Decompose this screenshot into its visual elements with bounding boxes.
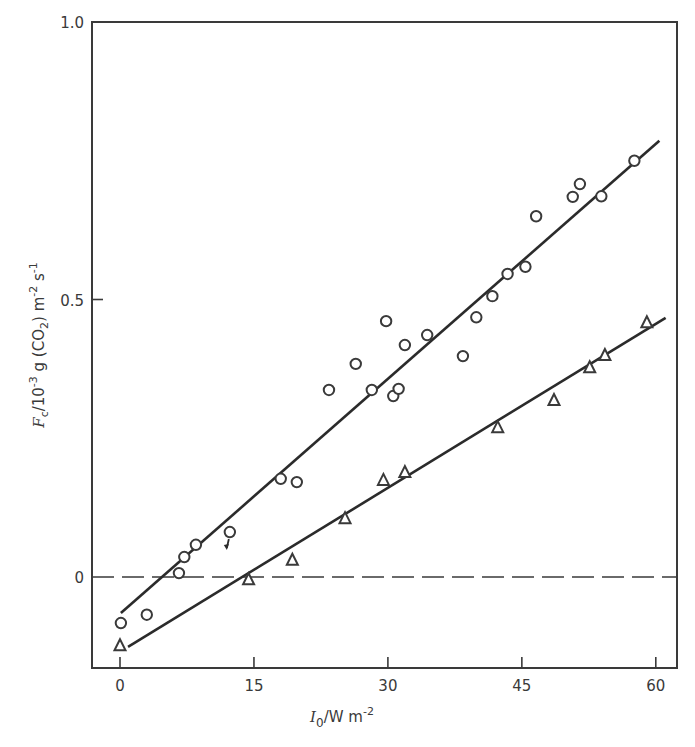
circles-fit-line <box>121 141 659 613</box>
circle-marker <box>179 552 189 562</box>
circle-marker <box>629 156 639 166</box>
triangle-marker <box>340 512 351 523</box>
triangle-marker <box>378 474 389 485</box>
triangle-marker <box>399 466 410 477</box>
x-tick-label: 15 <box>244 677 263 695</box>
circle-marker <box>393 384 403 394</box>
triangles-fit-line <box>128 318 666 647</box>
arrowhead-icon <box>224 544 229 550</box>
circle-marker <box>324 385 334 395</box>
y-tick-label: 1.0 <box>60 14 84 32</box>
triangle-marker <box>599 349 610 360</box>
circle-marker <box>400 340 410 350</box>
axis-ticks: 01530456000.51.0 <box>60 14 665 695</box>
y-tick-label: 0 <box>74 569 84 587</box>
x-tick-label: 0 <box>115 677 125 695</box>
circle-marker <box>596 191 606 201</box>
circle-marker <box>575 179 585 189</box>
y-tick-label: 0.5 <box>60 292 84 310</box>
circle-marker <box>568 192 578 202</box>
x-tick-label: 30 <box>378 677 397 695</box>
circle-marker <box>422 330 432 340</box>
triangle-marker <box>641 316 652 327</box>
circle-marker <box>381 316 391 326</box>
x-axis-label: I0/W m-2 <box>309 705 374 730</box>
x-tick-label: 60 <box>646 677 665 695</box>
circle-marker <box>531 211 541 221</box>
circle-marker <box>351 359 361 369</box>
triangle-marker <box>115 639 126 650</box>
circle-marker <box>520 262 530 272</box>
chart: 01530456000.51.0 I0/W m-2 Fc/10-3 g (CO2… <box>0 0 695 747</box>
circle-marker <box>487 291 497 301</box>
circle-marker <box>174 568 184 578</box>
circle-marker <box>367 385 377 395</box>
circle-marker <box>276 474 286 484</box>
circle-marker <box>292 477 302 487</box>
triangle-marker <box>287 554 298 565</box>
circle-marker <box>471 312 481 322</box>
y-axis-label: Fc/10-3 g (CO2) m-2 s-1 <box>27 262 51 429</box>
circle-marker <box>191 540 201 550</box>
data-points <box>115 156 653 651</box>
triangle-marker <box>548 394 559 405</box>
circle-marker <box>116 618 126 628</box>
circle-marker <box>142 610 152 620</box>
circle-marker <box>225 527 235 537</box>
x-tick-label: 45 <box>512 677 531 695</box>
circle-marker <box>502 269 512 279</box>
circle-marker <box>458 351 468 361</box>
annotations <box>224 539 229 550</box>
